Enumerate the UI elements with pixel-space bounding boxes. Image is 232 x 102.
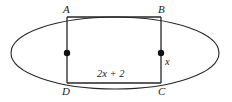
base-measure-label: 2x + 2 bbox=[97, 68, 125, 79]
vertex-label-c: C bbox=[158, 86, 165, 97]
geometry-figure: A B C D 2x + 2 x bbox=[0, 0, 232, 102]
midpoint-dot-left bbox=[64, 50, 70, 56]
vertex-label-d: D bbox=[62, 86, 70, 97]
midpoint-dot-right bbox=[158, 50, 164, 56]
vertex-label-b: B bbox=[158, 4, 165, 15]
figure-canvas bbox=[0, 0, 232, 102]
vertex-label-a: A bbox=[63, 4, 70, 15]
height-measure-label: x bbox=[165, 56, 170, 67]
